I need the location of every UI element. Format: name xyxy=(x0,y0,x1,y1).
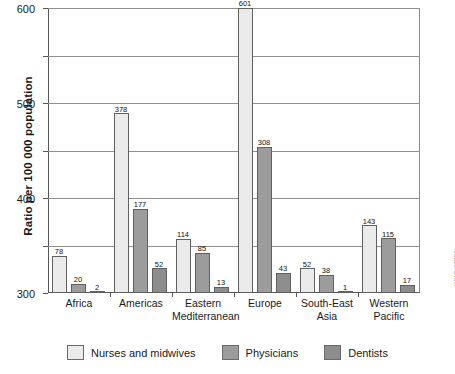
bar-groups: 7820237817752114851360130843523811431151… xyxy=(48,8,420,293)
x-axis-label-line: Americas xyxy=(110,297,172,310)
bar-value-label: 13 xyxy=(217,279,225,287)
bar: 20 xyxy=(71,284,86,294)
bar-value-label: 20 xyxy=(74,276,82,284)
bar: 143 xyxy=(362,225,377,293)
bar-group: 52381 xyxy=(296,8,358,293)
bar-value-label: 115 xyxy=(382,231,394,239)
x-axis-label: Americas xyxy=(110,297,172,310)
bar-value-label: 601 xyxy=(239,0,252,8)
chart-legend: Nurses and midwivesPhysiciansDentists xyxy=(0,345,455,360)
y-axis-title: Ratio per 100 000 population xyxy=(22,36,34,276)
y-axis-tick: 0 xyxy=(43,293,48,294)
bar: 13 xyxy=(214,287,229,293)
bar-value-label: 43 xyxy=(279,265,287,273)
x-axis-label-line: Western xyxy=(358,297,420,310)
x-axis-label-line: Pacific xyxy=(358,310,420,323)
bar: 52 xyxy=(152,268,167,293)
bar: 2 xyxy=(90,291,105,293)
bar: 38 xyxy=(319,275,334,293)
legend-label: Nurses and midwives xyxy=(91,347,196,359)
y-axis-tick-label: 500 xyxy=(17,98,35,110)
y-axis-tick-label: 400 xyxy=(17,193,35,205)
bar: 601 xyxy=(238,8,253,293)
bar: 114 xyxy=(176,239,191,293)
legend-label: Physicians xyxy=(246,347,299,359)
bar: 78 xyxy=(52,256,67,293)
legend-item: Nurses and midwives xyxy=(67,345,196,360)
legend-swatch xyxy=(67,345,84,360)
bar: 308 xyxy=(257,147,272,293)
x-axis-labels: AfricaAmericasEasternMediterraneanEurope… xyxy=(48,297,420,337)
legend-swatch xyxy=(324,345,341,360)
bar-value-label: 52 xyxy=(303,261,311,269)
legend-label: Dentists xyxy=(348,347,388,359)
x-axis-label: WesternPacific xyxy=(358,297,420,322)
bar-value-label: 114 xyxy=(177,231,189,239)
bar: 52 xyxy=(300,268,315,293)
x-axis-label: South-EastAsia xyxy=(296,297,358,322)
bar: 177 xyxy=(133,209,148,293)
legend-swatch xyxy=(222,345,239,360)
bar-value-label: 2 xyxy=(95,284,99,292)
bar-value-label: 38 xyxy=(322,267,330,275)
y-axis-tick-label: 300 xyxy=(17,288,35,300)
bar: 17 xyxy=(400,285,415,293)
bar: 115 xyxy=(381,238,396,293)
bar: 378 xyxy=(114,113,129,293)
bar-group: 60130843 xyxy=(234,8,296,293)
x-axis-label: Africa xyxy=(48,297,110,310)
bar-value-label: 308 xyxy=(258,139,271,147)
plot-area: 0100200300400500600 78202378177521148513… xyxy=(48,8,420,293)
bar-value-label: 378 xyxy=(115,106,128,114)
bar-group: 37817752 xyxy=(110,8,172,293)
x-axis-label-line: Europe xyxy=(234,297,296,310)
x-axis-label: EasternMediterranean xyxy=(172,297,234,322)
bar-value-label: 85 xyxy=(198,245,206,253)
x-axis-label-line: Eastern xyxy=(172,297,234,310)
bar-value-label: 52 xyxy=(155,261,163,269)
x-axis-label-line: Africa xyxy=(48,297,110,310)
bar: 1 xyxy=(338,291,353,293)
bar-group: 1148513 xyxy=(172,8,234,293)
legend-item: Physicians xyxy=(222,345,299,360)
bar-value-label: 177 xyxy=(134,201,147,209)
bar: 43 xyxy=(276,273,291,293)
bar-value-label: 1 xyxy=(343,284,347,292)
y-axis-tick-label: 600 xyxy=(17,3,35,15)
bar-value-label: 78 xyxy=(55,248,63,256)
legend-item: Dentists xyxy=(324,345,388,360)
bar-group: 14311517 xyxy=(358,8,420,293)
x-axis-label: Europe xyxy=(234,297,296,310)
bar-chart-figure: Ratio per 100 000 population 01002003004… xyxy=(0,0,455,374)
bar-group: 78202 xyxy=(48,8,110,293)
bar-value-label: 143 xyxy=(363,218,376,226)
x-axis-label-line: Mediterranean xyxy=(172,310,234,323)
x-axis-label-line: Asia xyxy=(296,310,358,323)
bar-value-label: 17 xyxy=(403,277,411,285)
bar: 85 xyxy=(195,253,210,293)
x-axis-label-line: South-East xyxy=(296,297,358,310)
